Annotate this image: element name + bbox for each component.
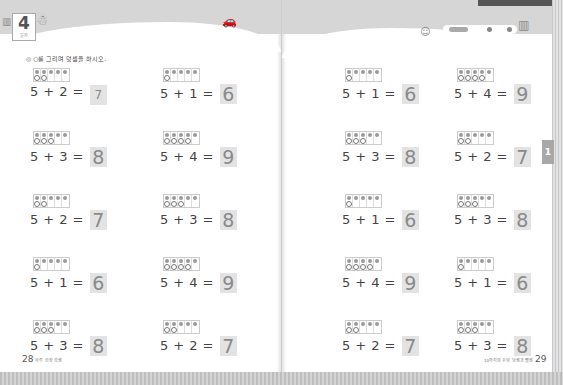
ten-frame-cell[interactable]	[465, 75, 472, 81]
ten-frame-cell[interactable]	[185, 264, 192, 270]
ten-frame-cell[interactable]	[62, 264, 69, 270]
ten-frame-cell[interactable]	[367, 201, 374, 207]
answer-box[interactable]: 6	[402, 84, 419, 104]
answer-box[interactable]: 6	[402, 210, 419, 230]
ten-frame-cell[interactable]	[486, 201, 493, 207]
ten-frame-cell[interactable]	[171, 75, 178, 81]
ten-frame-cell[interactable]	[178, 75, 185, 81]
ten-frame-cell[interactable]	[34, 75, 41, 81]
ten-frame-cell[interactable]	[41, 327, 48, 333]
answer-box[interactable]: 7	[402, 336, 419, 356]
ten-frame-cell[interactable]	[367, 327, 374, 333]
answer-box[interactable]: 6	[514, 273, 531, 293]
ten-frame[interactable]	[33, 194, 70, 208]
ten-frame-cell[interactable]	[41, 201, 48, 207]
ten-frame-cell[interactable]	[346, 264, 353, 270]
ten-frame[interactable]	[345, 131, 382, 145]
answer-box[interactable]: 8	[402, 147, 419, 167]
ten-frame[interactable]	[345, 320, 382, 334]
ten-frame-cell[interactable]	[479, 75, 486, 81]
ten-frame-cell[interactable]	[48, 264, 55, 270]
ten-frame-cell[interactable]	[346, 327, 353, 333]
ten-frame-cell[interactable]	[41, 75, 48, 81]
answer-box[interactable]: 8	[90, 147, 107, 167]
ten-frame-cell[interactable]	[486, 75, 493, 81]
ten-frame[interactable]	[33, 257, 70, 271]
ten-frame-cell[interactable]	[479, 138, 486, 144]
ten-frame-cell[interactable]	[479, 327, 486, 333]
ten-frame-cell[interactable]	[353, 327, 360, 333]
ten-frame-cell[interactable]	[465, 327, 472, 333]
ten-frame-cell[interactable]	[48, 138, 55, 144]
answer-box[interactable]: 8	[514, 210, 531, 230]
ten-frame[interactable]	[457, 131, 494, 145]
answer-box[interactable]: 8	[220, 210, 237, 230]
answer-box[interactable]: 7	[90, 210, 107, 230]
ten-frame-cell[interactable]	[458, 327, 465, 333]
ten-frame[interactable]	[33, 320, 70, 334]
ten-frame-cell[interactable]	[472, 327, 479, 333]
ten-frame[interactable]	[457, 194, 494, 208]
ten-frame[interactable]	[163, 194, 200, 208]
ten-frame-cell[interactable]	[479, 201, 486, 207]
ten-frame-cell[interactable]	[360, 201, 367, 207]
answer-box[interactable]: 9	[402, 273, 419, 293]
ten-frame[interactable]	[163, 68, 200, 82]
ten-frame-cell[interactable]	[360, 264, 367, 270]
answer-box[interactable]: 6	[220, 84, 237, 104]
ten-frame-cell[interactable]	[164, 201, 171, 207]
ten-frame-cell[interactable]	[374, 264, 381, 270]
ten-frame[interactable]	[33, 131, 70, 145]
ten-frame-cell[interactable]	[185, 138, 192, 144]
ten-frame[interactable]	[345, 257, 382, 271]
ten-frame-cell[interactable]	[171, 201, 178, 207]
ten-frame-cell[interactable]	[192, 75, 199, 81]
ten-frame-cell[interactable]	[472, 75, 479, 81]
ten-frame[interactable]	[457, 320, 494, 334]
ten-frame-cell[interactable]	[374, 327, 381, 333]
ten-frame-cell[interactable]	[192, 264, 199, 270]
answer-box[interactable]: 8	[514, 336, 531, 356]
ten-frame-cell[interactable]	[55, 327, 62, 333]
ten-frame-cell[interactable]	[55, 201, 62, 207]
ten-frame-cell[interactable]	[178, 264, 185, 270]
ten-frame-cell[interactable]	[472, 201, 479, 207]
ten-frame-cell[interactable]	[62, 201, 69, 207]
ten-frame-cell[interactable]	[171, 327, 178, 333]
ten-frame-cell[interactable]	[367, 75, 374, 81]
ten-frame-cell[interactable]	[48, 75, 55, 81]
ten-frame-cell[interactable]	[486, 138, 493, 144]
ten-frame-cell[interactable]	[178, 138, 185, 144]
ten-frame-cell[interactable]	[353, 138, 360, 144]
ten-frame-cell[interactable]	[34, 264, 41, 270]
ten-frame-cell[interactable]	[178, 201, 185, 207]
ten-frame-cell[interactable]	[458, 75, 465, 81]
ten-frame-cell[interactable]	[185, 327, 192, 333]
ten-frame[interactable]	[457, 257, 494, 271]
ten-frame[interactable]	[345, 68, 382, 82]
ten-frame-cell[interactable]	[185, 75, 192, 81]
answer-box[interactable]: 9	[220, 273, 237, 293]
ten-frame-cell[interactable]	[48, 201, 55, 207]
ten-frame-cell[interactable]	[486, 264, 493, 270]
ten-frame-cell[interactable]	[479, 264, 486, 270]
ten-frame[interactable]	[163, 320, 200, 334]
ten-frame-cell[interactable]	[353, 264, 360, 270]
ten-frame-cell[interactable]	[486, 327, 493, 333]
ten-frame-cell[interactable]	[48, 327, 55, 333]
ten-frame-cell[interactable]	[55, 138, 62, 144]
ten-frame-cell[interactable]	[164, 327, 171, 333]
ten-frame-cell[interactable]	[346, 138, 353, 144]
ten-frame-cell[interactable]	[458, 201, 465, 207]
answer-box[interactable]: 9	[220, 147, 237, 167]
ten-frame[interactable]	[163, 131, 200, 145]
ten-frame-cell[interactable]	[353, 75, 360, 81]
answer-box[interactable]: 7	[514, 147, 531, 167]
ten-frame-cell[interactable]	[360, 138, 367, 144]
ten-frame-cell[interactable]	[185, 201, 192, 207]
ten-frame-cell[interactable]	[346, 75, 353, 81]
ten-frame-cell[interactable]	[192, 327, 199, 333]
ten-frame-cell[interactable]	[34, 138, 41, 144]
ten-frame-cell[interactable]	[178, 327, 185, 333]
ten-frame-cell[interactable]	[34, 201, 41, 207]
